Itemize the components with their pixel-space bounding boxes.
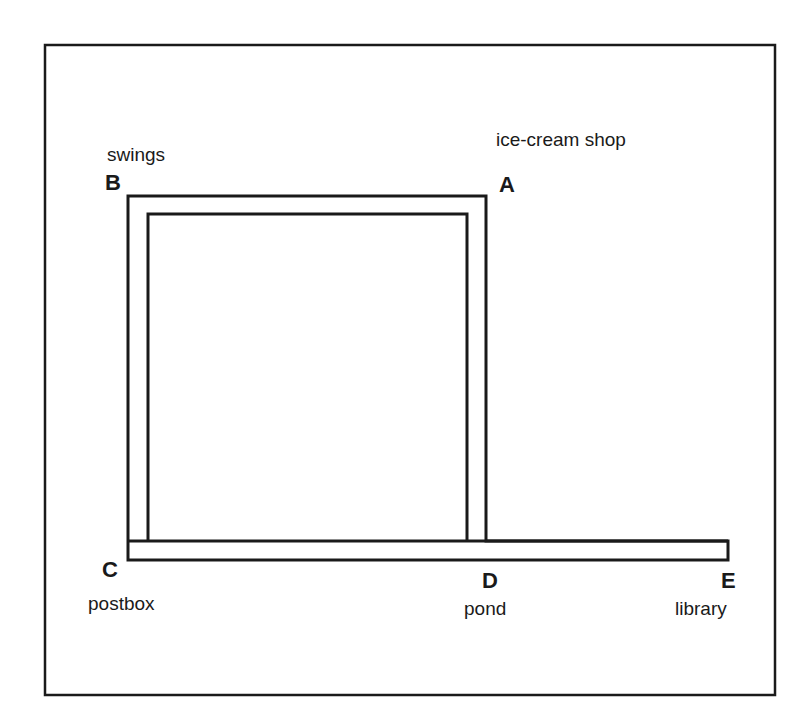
point-label-a: A [499,174,515,196]
place-label-library: library [675,599,727,618]
point-label-c: C [102,559,118,581]
point-label-e: E [721,570,736,592]
path-inner-edge [148,214,467,541]
place-label-postbox: postbox [88,594,155,613]
place-label-pond: pond [464,599,506,618]
point-label-d: D [482,570,498,592]
place-label-swings: swings [107,145,165,164]
point-label-b: B [105,172,121,194]
path-outer-edge [128,196,728,560]
place-label-ice-cream-shop: ice-cream shop [496,130,626,149]
